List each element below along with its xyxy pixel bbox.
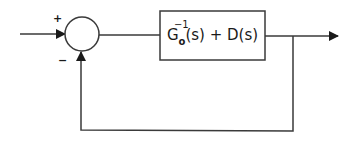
g-superscript: −1 [174, 19, 189, 30]
minus-sign-label: − [58, 55, 67, 66]
g-symbol: Go −1 [167, 26, 186, 44]
block-label: Go −1 (s) + D(s) [160, 11, 265, 59]
g-subscript: o [179, 36, 186, 47]
block-label-rest: (s) + D(s) [185, 26, 258, 44]
summing-junction [65, 17, 99, 51]
plus-sign-label: + [53, 13, 62, 24]
